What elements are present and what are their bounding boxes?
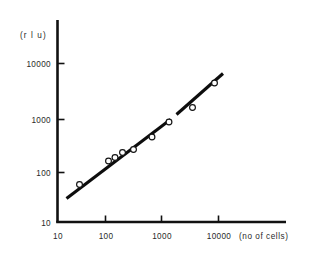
data-point (190, 105, 196, 111)
data-point (112, 155, 118, 161)
chart-figure: 10000 1000 100 10 10 100 1000 10000 (r l… (0, 0, 309, 254)
x-tick-label-10000: 10000 (207, 232, 232, 241)
data-point (166, 119, 172, 125)
chart-svg: 10000 1000 100 10 10 100 1000 10000 (r l… (0, 0, 309, 254)
y-tick-label-1000: 1000 (31, 116, 51, 125)
x-tick-label-1000: 1000 (152, 232, 172, 241)
x-axis-title: (no of cells) (239, 232, 288, 241)
x-tick-label-100: 100 (99, 232, 114, 241)
data-point (131, 147, 137, 153)
data-point (212, 80, 218, 86)
y-tick-label-100: 100 (36, 169, 51, 178)
y-tick-label-10000: 10000 (26, 60, 51, 69)
data-point (120, 150, 126, 156)
x-tick-label-10: 10 (53, 232, 63, 241)
data-point (106, 158, 112, 164)
data-point (149, 134, 155, 140)
y-axis-title: (r l u) (20, 31, 47, 40)
y-tick-label-10: 10 (41, 219, 51, 228)
data-point (77, 182, 83, 188)
